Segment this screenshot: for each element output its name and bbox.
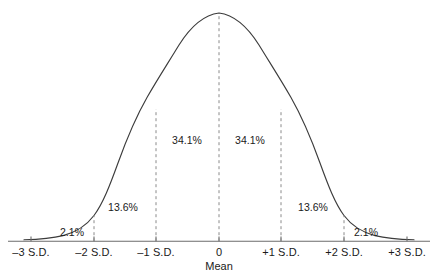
normal-distribution-chart: 2.1% 13.6% 34.1% 34.1% 13.6% 2.1% –3 S.D… xyxy=(0,0,438,280)
axis-label-mean-zero: 0 xyxy=(216,246,222,258)
region-label-right-outer: 13.6% xyxy=(298,201,328,213)
region-label-right-tail: 2.1% xyxy=(354,226,378,238)
axis-label-plus-1sd: +1 S.D. xyxy=(262,246,300,258)
region-label-left-tail: 2.1% xyxy=(60,226,84,238)
bell-curve-graphic xyxy=(0,0,438,280)
region-label-left-inner: 34.1% xyxy=(172,134,202,146)
axis-label-minus-3sd: –3 S.D. xyxy=(12,246,49,258)
region-label-left-outer: 13.6% xyxy=(108,201,138,213)
region-label-right-inner: 34.1% xyxy=(235,134,265,146)
axis-label-minus-2sd: –2 S.D. xyxy=(75,246,112,258)
axis-label-minus-1sd: –1 S.D. xyxy=(137,246,174,258)
axis-label-plus-2sd: +2 S.D. xyxy=(325,246,363,258)
mean-caption: Mean xyxy=(205,260,233,272)
axis-label-plus-3sd: +3 S.D. xyxy=(388,246,426,258)
